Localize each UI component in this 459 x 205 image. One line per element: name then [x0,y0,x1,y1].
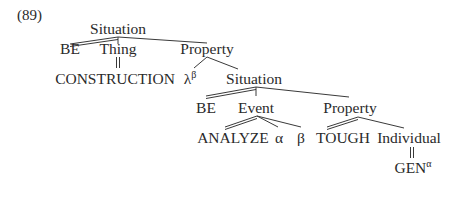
node-beta: β [297,130,305,146]
lambda-superscript: β [191,69,196,80]
gen-superscript: α [426,158,431,169]
node-property: Property [180,41,233,57]
tree-edges [0,0,459,205]
node-event: Event [238,100,274,116]
node-tough: TOUGH [316,130,370,146]
node-property: Property [323,100,376,116]
node-individual: Individual [377,130,441,146]
node-situation-root: Situation [90,21,146,37]
gen-label: GEN [394,159,426,176]
example-number: (89) [17,7,42,24]
lambda-symbol: λ [184,70,192,87]
node-be: BE [60,41,80,57]
node-situation: Situation [226,71,282,87]
node-gen: GENα [394,160,431,176]
node-analyze: ANALYZE [197,130,269,146]
node-thing: Thing [99,41,136,57]
node-construction: CONSTRUCTION [55,71,175,87]
node-alpha: α [275,130,283,146]
node-be: BE [196,100,216,116]
node-lambda: λβ [184,71,197,87]
